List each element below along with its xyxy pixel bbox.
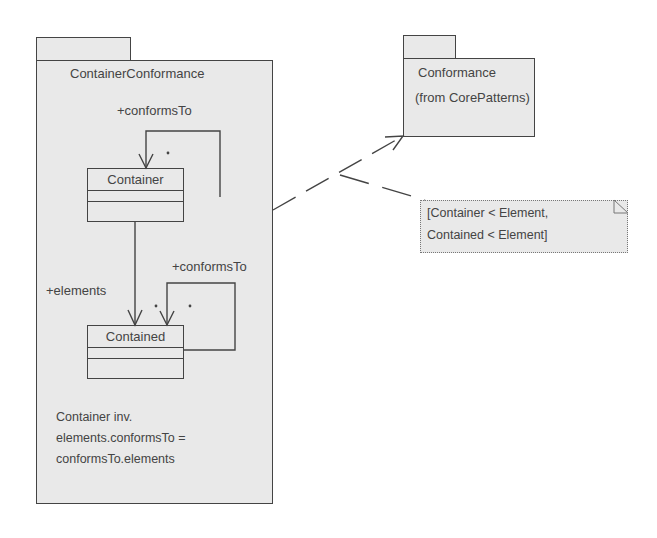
note-connector bbox=[340, 175, 425, 200]
contained-self-association bbox=[167, 283, 235, 350]
role-elements: +elements bbox=[46, 283, 106, 298]
role-contained-conformsto: +conformsTo bbox=[172, 259, 247, 274]
multiplicity-container-self bbox=[167, 152, 170, 155]
conformance-dependency bbox=[273, 136, 403, 210]
role-container-conformsto: +conformsTo bbox=[117, 103, 192, 118]
constraint-line-1: Container inv. bbox=[56, 410, 132, 425]
multiplicity-contained-self bbox=[189, 305, 192, 308]
note-fold bbox=[614, 200, 628, 213]
dependency-arrowhead bbox=[385, 136, 403, 150]
multiplicity-contained-left bbox=[155, 305, 158, 308]
constraint-line-3: conformsTo.elements bbox=[56, 452, 175, 467]
container-self-association bbox=[146, 131, 220, 197]
constraint-line-2: elements.conformsTo = bbox=[56, 431, 186, 446]
